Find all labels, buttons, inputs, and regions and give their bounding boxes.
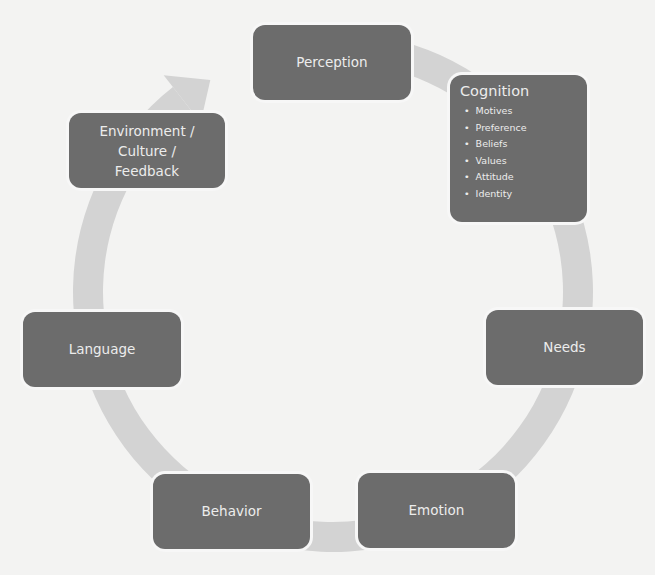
list-item: Attitude bbox=[464, 169, 577, 186]
list-item: Motives bbox=[464, 103, 577, 120]
node-label: Behavior bbox=[202, 501, 262, 522]
cognition-items: Motives Preference Beliefs Values Attitu… bbox=[460, 103, 577, 202]
node-cognition: Cognition Motives Preference Beliefs Val… bbox=[450, 75, 587, 222]
node-perception: Perception bbox=[253, 25, 411, 100]
node-environment: Environment / Culture / Feedback bbox=[69, 113, 225, 188]
node-behavior: Behavior bbox=[153, 474, 310, 549]
node-label: Needs bbox=[543, 337, 585, 358]
node-emotion: Emotion bbox=[358, 473, 515, 548]
node-label: Language bbox=[69, 339, 136, 360]
node-needs: Needs bbox=[486, 310, 643, 385]
list-item: Beliefs bbox=[464, 136, 577, 153]
node-label: Emotion bbox=[409, 500, 465, 521]
list-item: Preference bbox=[464, 120, 577, 137]
list-item: Identity bbox=[464, 186, 577, 203]
node-label: Perception bbox=[296, 52, 367, 73]
node-label: Environment / Culture / Feedback bbox=[99, 121, 194, 181]
node-language: Language bbox=[23, 312, 181, 387]
list-item: Values bbox=[464, 153, 577, 170]
node-label: Cognition bbox=[460, 81, 577, 101]
